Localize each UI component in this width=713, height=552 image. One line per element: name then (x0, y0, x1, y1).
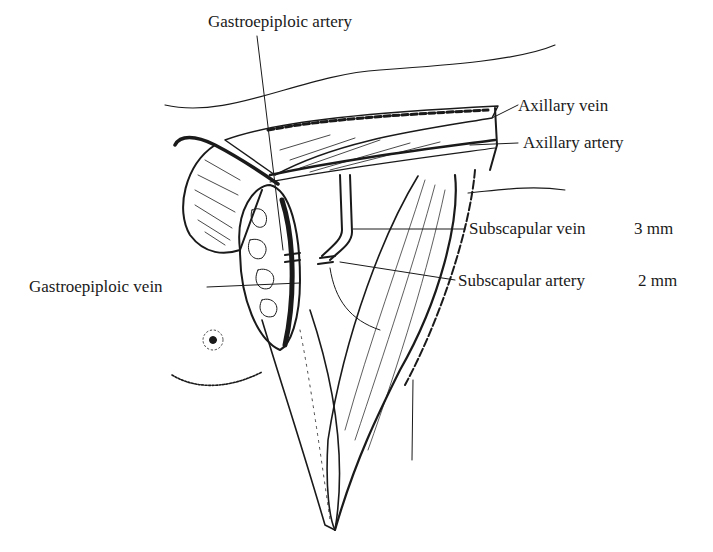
label-gastroepiploic-vein: Gastroepiploic vein (29, 278, 163, 295)
label-subscapular-artery-size: 2 mm (638, 272, 677, 289)
skin-contour-right (468, 188, 565, 193)
label-axillary-artery: Axillary artery (523, 134, 624, 151)
subscapular-vessels (322, 175, 352, 260)
label-subscapular-artery: Subscapular artery (458, 272, 585, 289)
pectoral-band-fat (268, 110, 488, 130)
label-gastroepiploic-artery: Gastroepiploic artery (208, 13, 352, 30)
breast-contour (172, 372, 262, 385)
retractor-hook (175, 138, 278, 185)
pectoral-band-outline (225, 106, 498, 175)
label-axillary-vein: Axillary vein (518, 97, 608, 114)
skin-contour-upper (165, 45, 555, 108)
label-subscapular-vein-size: 3 mm (634, 220, 673, 237)
label-subscapular-vein: Subscapular vein (469, 220, 586, 237)
leader-gastroepiploic-artery (257, 36, 283, 250)
anatomical-illustration (0, 0, 713, 552)
leader-gastroepiploic-vein (207, 283, 300, 287)
nipple (210, 337, 217, 344)
